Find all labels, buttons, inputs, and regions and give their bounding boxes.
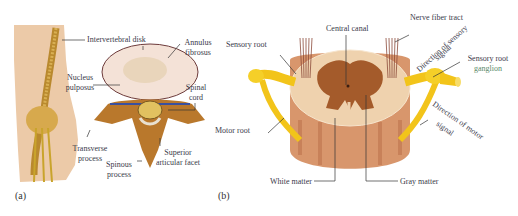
label-nucleus-pulposus-line1: Nucleus — [64, 73, 96, 82]
label-annulus-fibrosus-line2: fibrosus — [180, 48, 216, 57]
label-white-matter: White matter — [270, 177, 312, 186]
label-sensory-root-ganglion-line1: Sensory root — [460, 54, 516, 63]
label-spinal-cord-line1: Spinal — [184, 83, 208, 92]
label-intervertebral-disk: Intervertebral disk — [87, 35, 146, 44]
label-spinous-process-line1: Spinous — [104, 160, 134, 169]
label-central-canal: Central canal — [326, 24, 368, 33]
label-gray-matter: Gray matter — [400, 177, 438, 186]
label-motor-root: Motor root — [215, 126, 250, 135]
label-superior-articular-facet-line2: articular facet — [152, 158, 204, 167]
label-nucleus-pulposus-line2: pulposus — [64, 83, 96, 92]
label-spinal-cord-line2: cord — [184, 93, 208, 102]
label-superior-articular-facet-line1: Superior — [152, 148, 204, 157]
panel-caption-b: (b) — [218, 190, 230, 201]
label-transverse-process-line1: Transverse — [72, 144, 108, 153]
label-sensory-root-ganglion-line2: ganglion — [460, 64, 516, 73]
label-spinous-process-line2: process — [104, 170, 134, 179]
label-transverse-process-line2: process — [72, 154, 108, 163]
label-annulus-fibrosus-line1: Annulus — [180, 38, 216, 47]
label-nerve-fiber-tract: Nerve fiber tract — [410, 13, 463, 22]
body-side-view — [14, 25, 78, 182]
panel-caption-a: (a) — [15, 190, 26, 201]
label-sensory-root: Sensory root — [226, 40, 267, 49]
